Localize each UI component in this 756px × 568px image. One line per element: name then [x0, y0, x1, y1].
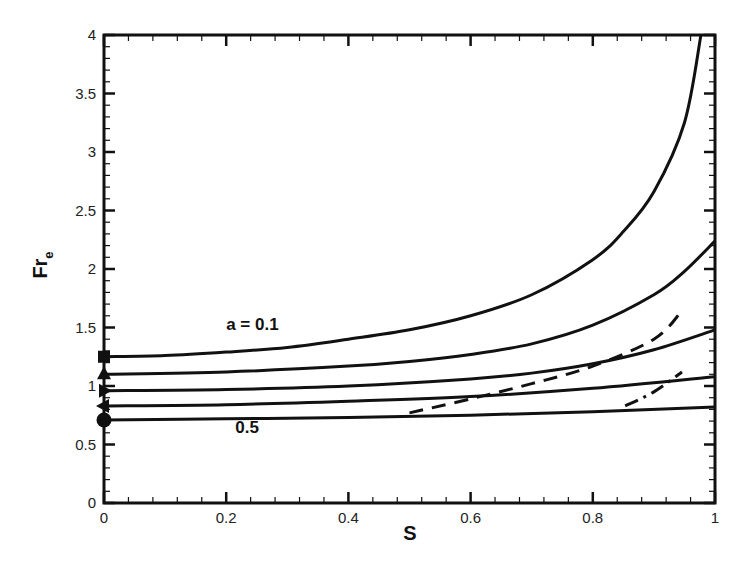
y-tick-label: 4 [88, 26, 96, 43]
plot-frame [104, 35, 715, 503]
y-tick-label: 1.5 [75, 319, 96, 336]
y-axis-title: Fre [29, 251, 56, 278]
y-tick-label: 3.5 [75, 85, 96, 102]
series-line-4 [104, 407, 715, 420]
y-tick-label: 2.5 [75, 202, 96, 219]
svg-text:Fre: Fre [29, 251, 56, 278]
x-tick-label: 0.2 [216, 509, 237, 526]
x-tick-label: 1 [711, 509, 719, 526]
annotation-a-0-1: a = 0.1 [226, 315, 278, 334]
x-tick-label: 0 [100, 509, 108, 526]
y-axis-title-subscript: e [41, 251, 56, 258]
x-tick-label: 0.6 [460, 509, 481, 526]
x-tick-label: 0.8 [582, 509, 603, 526]
major-ticks [104, 35, 715, 503]
minor-ticks [104, 35, 715, 503]
y-tick-labels: 00.511.522.533.54 [75, 26, 96, 511]
y-tick-label: 0.5 [75, 436, 96, 453]
x-tick-label: 0.4 [338, 509, 359, 526]
y-tick-label: 0 [88, 494, 96, 511]
chart: 00.20.40.60.81 00.511.522.533.54 S Fre a… [0, 0, 756, 568]
y-tick-label: 3 [88, 143, 96, 160]
series-line-0 [104, 35, 701, 357]
x-axis-title: S [403, 522, 416, 544]
y-tick-label: 1 [88, 377, 96, 394]
series-layer [104, 35, 715, 420]
series-line-6 [625, 372, 682, 406]
y-axis-title-main: Fr [29, 258, 51, 278]
y-tick-label: 2 [88, 260, 96, 277]
annotation-0-5: 0.5 [235, 418, 259, 437]
